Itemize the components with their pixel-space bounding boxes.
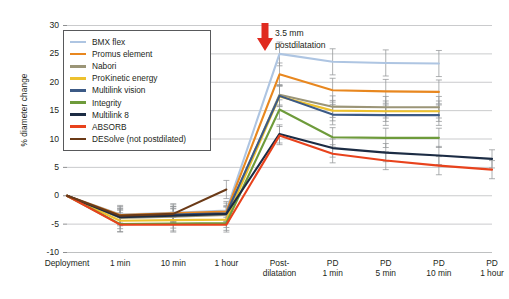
- legend-color-swatch: [70, 113, 86, 116]
- legend-color-swatch: [70, 77, 86, 80]
- legend-item[interactable]: Nabori: [70, 60, 205, 72]
- x-axis-tick-label-line: PD: [460, 258, 509, 269]
- postdilatation-arrow-icon: [255, 22, 277, 52]
- legend-item[interactable]: ABSORB: [70, 121, 205, 133]
- y-axis-tick-label: 15: [33, 105, 59, 115]
- legend-item[interactable]: Multilink 8: [70, 109, 205, 121]
- legend-item[interactable]: ProKinetic energy: [70, 72, 205, 84]
- y-axis-title: % diameter change: [19, 45, 29, 175]
- y-axis-tick-label: 0: [33, 190, 59, 200]
- legend-item-label: Multilink vision: [92, 85, 145, 95]
- legend-item-label: Promus element: [92, 49, 152, 59]
- legend-item[interactable]: BMX flex: [70, 36, 205, 48]
- legend-item[interactable]: Promus element: [70, 48, 205, 60]
- legend-item-label: ProKinetic energy: [92, 73, 158, 83]
- legend-item-label: BMX flex: [92, 37, 125, 47]
- legend-item[interactable]: Multilink vision: [70, 84, 205, 96]
- annotation-line-1: 3.5 mm: [275, 28, 326, 40]
- y-axis-tick-label: 5: [33, 162, 59, 172]
- x-axis-tick-label: PD1 hour: [460, 258, 509, 279]
- legend-color-swatch: [70, 41, 86, 44]
- legend-item[interactable]: Integrity: [70, 96, 205, 108]
- legend-item-label: Multilink 8: [92, 110, 129, 120]
- legend-color-swatch: [70, 65, 86, 68]
- y-axis-tick-label: 30: [33, 20, 59, 30]
- y-axis-tick-label: 10: [33, 134, 59, 144]
- y-axis-tick-label: -10: [33, 247, 59, 257]
- annotation-line-2: postdilatation: [275, 40, 326, 52]
- legend-color-swatch: [70, 138, 86, 141]
- y-axis-tick-label: 20: [33, 77, 59, 87]
- legend-item-label: ABSORB: [92, 122, 127, 132]
- x-axis-tick-label-line: 1 hour: [460, 268, 509, 279]
- y-axis-tick-label: -5: [33, 219, 59, 229]
- chart-legend: BMX flexPromus elementNaboriProKinetic e…: [63, 30, 211, 151]
- legend-item-label: DESolve (not postdilated): [92, 134, 186, 144]
- legend-item-label: Integrity: [92, 98, 122, 108]
- legend-color-swatch: [70, 125, 86, 128]
- y-axis-tick-label: 25: [33, 48, 59, 58]
- legend-color-swatch: [70, 101, 86, 104]
- legend-color-swatch: [70, 53, 86, 56]
- legend-color-swatch: [70, 89, 86, 92]
- legend-item-label: Nabori: [92, 61, 116, 71]
- postdilatation-annotation: 3.5 mm postdilatation: [275, 28, 326, 51]
- legend-item[interactable]: DESolve (not postdilated): [70, 133, 205, 145]
